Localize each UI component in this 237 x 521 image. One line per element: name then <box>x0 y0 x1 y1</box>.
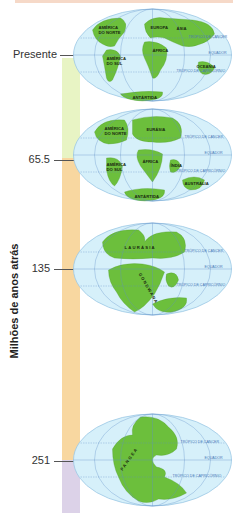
svg-text:TRÓPICO DE CAPRICÓRNIO: TRÓPICO DE CAPRICÓRNIO <box>177 168 226 173</box>
svg-text:ÁSIA: ÁSIA <box>177 26 187 31</box>
svg-text:ÍNDIA: ÍNDIA <box>171 163 182 168</box>
svg-text:TRÓPICO DE CAPRICÓRNIO: TRÓPICO DE CAPRICÓRNIO <box>177 68 226 73</box>
tick-label-65: 65.5 <box>0 153 50 165</box>
svg-text:DO NORTE: DO NORTE <box>105 131 127 136</box>
svg-text:LAURÁSIA: LAURÁSIA <box>125 245 156 250</box>
svg-text:ÁFRICA: ÁFRICA <box>143 159 159 164</box>
map-251-million: PANGEA TRÓPICO DE CÂNCER EQUADOR TRÓPICO… <box>72 413 233 507</box>
world-map-65-graphic: AMÉRICA DO NORTE EURÁSIA ÁFRICA AMÉRICA … <box>72 108 233 202</box>
svg-text:TRÓPICO DE CAPRICÓRNIO: TRÓPICO DE CAPRICÓRNIO <box>173 473 222 478</box>
world-map-135-graphic: LAURÁSIA GONDWANA TRÓPICO DE CÂNCER EQUA… <box>72 222 233 316</box>
tick-label-present: Presente <box>0 48 57 60</box>
svg-text:TRÓPICO DE CÂNCER: TRÓPICO DE CÂNCER <box>185 134 224 139</box>
svg-text:TRÓPICO DE CAPRICÓRNIO: TRÓPICO DE CAPRICÓRNIO <box>177 282 226 287</box>
world-map-present-graphic: AMÉRICA DO NORTE EUROPA ÁSIA ÁFRICA AMÉR… <box>72 8 233 102</box>
svg-text:TRÓPICO DE CÂNCER: TRÓPICO DE CÂNCER <box>189 34 228 39</box>
svg-text:EUROPA: EUROPA <box>151 25 169 30</box>
svg-text:TRÓPICO DE CÂNCER: TRÓPICO DE CÂNCER <box>181 439 220 444</box>
tick-label-135: 135 <box>0 262 50 274</box>
top-accent-bar <box>15 0 233 3</box>
svg-text:EQUADOR: EQUADOR <box>205 456 224 460</box>
svg-text:DO SUL: DO SUL <box>107 167 123 172</box>
svg-text:EQUADOR: EQUADOR <box>205 265 224 269</box>
svg-text:ÁFRICA: ÁFRICA <box>153 48 169 53</box>
svg-text:EQUADOR: EQUADOR <box>209 51 228 55</box>
svg-text:AUSTRÁLIA: AUSTRÁLIA <box>185 181 209 186</box>
svg-text:ANTÁRTIDA: ANTÁRTIDA <box>133 95 157 100</box>
map-65-5-million: AMÉRICA DO NORTE EURÁSIA ÁFRICA AMÉRICA … <box>72 108 233 202</box>
svg-text:EQUADOR: EQUADOR <box>205 151 224 155</box>
y-axis-title: Milhões de anos atrás <box>8 231 24 371</box>
svg-text:DO SUL: DO SUL <box>107 61 123 66</box>
map-present: AMÉRICA DO NORTE EUROPA ÁSIA ÁFRICA AMÉR… <box>72 8 233 102</box>
world-map-251-graphic: PANGEA TRÓPICO DE CÂNCER EQUADOR TRÓPICO… <box>72 413 233 507</box>
map-135-million: LAURÁSIA GONDWANA TRÓPICO DE CÂNCER EQUA… <box>72 222 233 316</box>
tick-label-251: 251 <box>0 454 50 466</box>
svg-text:DO NORTE: DO NORTE <box>99 30 121 35</box>
svg-text:TRÓPICO DE CÂNCER: TRÓPICO DE CÂNCER <box>185 248 224 253</box>
svg-text:ANTÁRTIDA: ANTÁRTIDA <box>135 194 159 199</box>
svg-text:EURÁSIA: EURÁSIA <box>147 127 166 132</box>
